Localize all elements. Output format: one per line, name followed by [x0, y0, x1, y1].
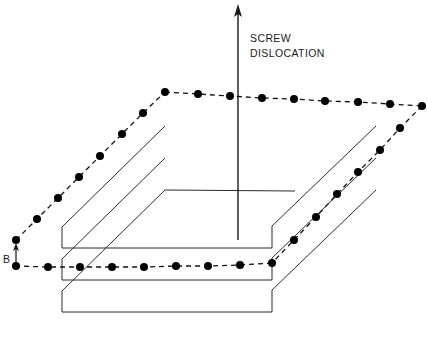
atom-dot	[44, 263, 52, 271]
atom-dot	[386, 100, 394, 108]
burgers-circuit-dots-group	[12, 88, 426, 271]
atom-dot	[268, 259, 276, 267]
atom-dot	[258, 94, 266, 102]
atom-dot	[161, 88, 169, 96]
lattice-plane-middle	[62, 158, 376, 280]
lattice-plane-upper	[62, 126, 376, 248]
atom-dot	[312, 213, 320, 221]
atom-dot	[76, 263, 84, 271]
screw-dislocation-label-line1: SCREW	[250, 32, 291, 44]
screw-dislocation-axis-group	[234, 4, 242, 240]
atom-dot	[12, 262, 20, 270]
atom-dot	[236, 261, 244, 269]
screw-dislocation-figure: SCREW DISLOCATION B	[0, 0, 427, 342]
atom-dot	[354, 98, 362, 106]
lattice-plane-lower	[62, 190, 376, 312]
diagram-canvas: SCREW DISLOCATION B	[0, 0, 427, 342]
atom-dot	[12, 236, 20, 244]
atom-dot	[290, 95, 298, 103]
atom-dot	[376, 146, 384, 154]
atom-dot	[118, 130, 126, 138]
atom-dot	[108, 263, 116, 271]
atom-dot	[321, 97, 329, 105]
atom-dot	[75, 173, 83, 181]
atom-dot	[396, 124, 404, 132]
atom-dot	[140, 263, 148, 271]
screw-dislocation-label-line2: DISLOCATION	[250, 47, 325, 59]
atom-dot	[33, 215, 41, 223]
burgers-vector-label: B	[3, 253, 10, 265]
atom-dot	[333, 190, 341, 198]
atom-dot	[354, 168, 362, 176]
lattice-ramp-step-inner	[165, 190, 295, 191]
atom-dot	[172, 262, 180, 270]
atom-dot	[96, 152, 104, 160]
atom-dot	[194, 90, 202, 98]
burgers-vector-group	[13, 243, 19, 262]
atom-dot	[226, 92, 234, 100]
atom-dot	[290, 236, 298, 244]
atom-dot	[139, 109, 147, 117]
atom-dot	[204, 262, 212, 270]
atom-dot	[54, 194, 62, 202]
lattice-planes-group	[62, 126, 376, 312]
atom-dot	[418, 102, 426, 110]
